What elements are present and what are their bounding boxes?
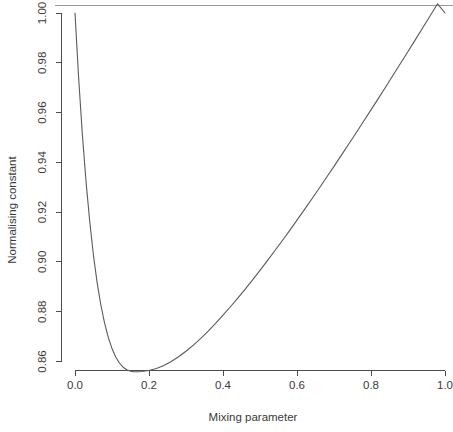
x-tick-label-0: 0.0 <box>67 379 83 391</box>
y-axis-title: Normalising constant <box>6 156 18 264</box>
y-tick-label-1: 0.88 <box>36 301 48 323</box>
y-tick-label-0: 0.86 <box>36 350 48 372</box>
y-axis-ticks <box>56 13 62 362</box>
y-tick-label-3: 0.92 <box>36 201 48 223</box>
y-tick-label-2: 0.90 <box>36 251 48 273</box>
y-tick-label-5: 0.96 <box>36 101 48 123</box>
x-tick-label-3: 0.6 <box>289 379 305 391</box>
y-tick-label-7: 1.00 <box>36 2 48 24</box>
data-series-line <box>75 4 445 372</box>
x-axis-title: Mixing parameter <box>209 411 298 423</box>
chart-figure: 0.86 0.88 0.90 0.92 0.94 0.96 0.98 1.00 … <box>0 0 453 432</box>
normalising-constant-line-chart: 0.86 0.88 0.90 0.92 0.94 0.96 0.98 1.00 … <box>0 0 453 432</box>
x-tick-label-2: 0.4 <box>215 379 232 391</box>
x-tick-label-5: 1.0 <box>437 379 453 391</box>
x-tick-label-1: 0.2 <box>141 379 157 391</box>
y-axis-tick-labels: 0.86 0.88 0.90 0.92 0.94 0.96 0.98 1.00 <box>36 2 48 373</box>
y-tick-label-4: 0.94 <box>36 151 48 174</box>
x-tick-label-4: 0.8 <box>363 379 379 391</box>
y-tick-label-6: 0.98 <box>36 52 48 74</box>
x-axis-tick-labels: 0.0 0.2 0.4 0.6 0.8 1.0 <box>67 379 453 391</box>
